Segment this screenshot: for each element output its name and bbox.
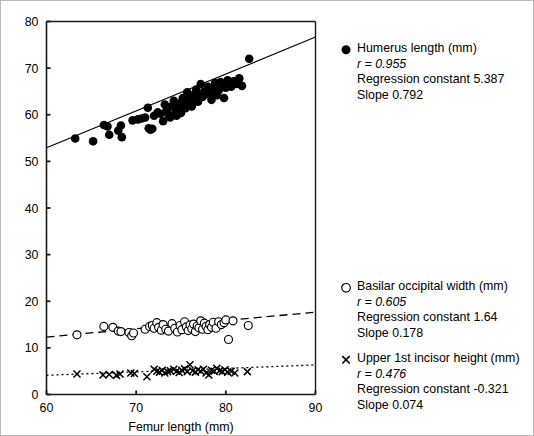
x-tick-label-70: 70	[129, 401, 143, 415]
legend-humerus-title-row: Humerus length (mm)	[340, 41, 504, 57]
data-point	[100, 322, 108, 330]
legend-humerus-name: Humerus length (mm)	[357, 41, 477, 55]
regression-line-0	[47, 37, 316, 148]
data-point	[244, 368, 251, 375]
legend-incisor-name: Upper 1st incisor height (mm)	[357, 351, 520, 365]
legend-entry-basilar: Basilar occipital width (mm) r = 0.605 R…	[340, 279, 508, 341]
y-tick-label-80: 80	[25, 15, 39, 29]
x-axis-title: Femur length (mm)	[128, 420, 233, 434]
data-point	[238, 82, 247, 91]
y-tick-label-70: 70	[25, 62, 39, 76]
legend-basilar-constant: Regression constant 1.64	[340, 310, 508, 326]
legend-incisor-constant: Regression constant -0.321	[340, 382, 520, 398]
legend-humerus-constant: Regression constant 5.387	[340, 72, 504, 88]
data-point	[229, 317, 237, 325]
legend-entry-humerus: Humerus length (mm) r = 0.955 Regression…	[340, 41, 504, 103]
data-point	[220, 94, 229, 103]
x-tick-label-60: 60	[40, 401, 54, 415]
data-point	[148, 124, 157, 133]
y-tick-label-30: 30	[25, 248, 39, 262]
y-tick-label-40: 40	[25, 202, 39, 216]
legend-basilar-r: r = 0.605	[340, 295, 508, 311]
series-0	[47, 37, 316, 148]
legend-incisor-r: r = 0.476	[340, 367, 520, 383]
series-2	[47, 361, 316, 380]
legend-humerus-r: r = 0.955	[340, 57, 504, 73]
y-tick-label-20: 20	[25, 295, 39, 309]
data-point	[244, 321, 252, 329]
y-tick-label-50: 50	[25, 155, 39, 169]
open-circle-marker-icon	[340, 279, 354, 295]
legend-entry-incisor: Upper 1st incisor height (mm) r = 0.476 …	[340, 351, 520, 413]
x-tick-label-80: 80	[219, 401, 233, 415]
data-point	[117, 121, 126, 130]
data-point	[105, 130, 114, 139]
data-point	[71, 134, 80, 143]
legend-basilar-slope: Slope 0.178	[340, 326, 508, 342]
scatter-plot-figure: 0102030405060708060708090Femur length (m…	[0, 0, 534, 436]
legend-incisor-title-row: Upper 1st incisor height (mm)	[340, 351, 520, 367]
data-point	[144, 103, 153, 112]
data-point	[73, 370, 80, 377]
legend-basilar-title-row: Basilar occipital width (mm)	[340, 279, 508, 295]
data-point	[118, 133, 127, 142]
data-point	[129, 329, 137, 337]
legend-basilar-name: Basilar occipital width (mm)	[357, 279, 508, 293]
series-1	[47, 312, 316, 343]
data-point	[117, 328, 125, 336]
data-point	[143, 373, 150, 380]
data-point	[89, 137, 98, 146]
filled-circle-marker-icon	[340, 41, 354, 57]
legend-incisor-slope: Slope 0.074	[340, 398, 520, 414]
data-point	[235, 74, 244, 83]
x-tick-label-90: 90	[309, 401, 323, 415]
cross-marker-icon	[340, 351, 354, 367]
y-tick-label-0: 0	[32, 388, 39, 402]
data-point	[106, 371, 113, 378]
data-point	[141, 113, 150, 122]
y-tick-label-10: 10	[25, 341, 39, 355]
y-tick-label-60: 60	[25, 108, 39, 122]
data-point	[73, 331, 81, 339]
data-point	[225, 335, 233, 343]
data-point	[103, 122, 112, 131]
data-point	[245, 55, 254, 64]
legend-humerus-slope: Slope 0.792	[340, 88, 504, 104]
